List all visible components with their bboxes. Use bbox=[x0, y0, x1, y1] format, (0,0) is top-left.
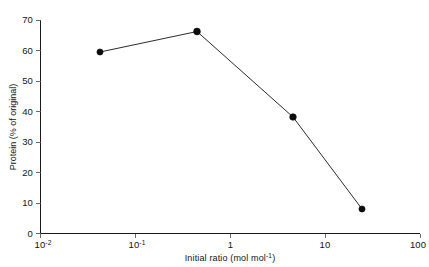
data-point-1 bbox=[97, 49, 103, 55]
x-tick-marks bbox=[41, 234, 421, 239]
y-tick-label-10: 10 bbox=[22, 197, 33, 208]
x-axis-title: Initial ratio (mol mol-1) bbox=[185, 252, 276, 264]
data-point-3 bbox=[290, 114, 297, 121]
x-tick-base-2: 10 bbox=[129, 239, 140, 250]
x-tick-label-100: 100 bbox=[410, 239, 426, 250]
x-axis-title-main: Initial ratio (mol mol bbox=[185, 253, 266, 263]
y-tick-label-60: 60 bbox=[22, 45, 33, 56]
y-tick-label-0: 0 bbox=[28, 228, 33, 239]
x-tick-label-1e-1: 10-1 bbox=[129, 239, 146, 251]
y-axis-title: Protein (% of original) bbox=[8, 84, 18, 171]
y-tick-label-50: 50 bbox=[22, 75, 33, 86]
data-point-2 bbox=[194, 28, 201, 35]
x-tick-base-1: 10 bbox=[35, 239, 46, 250]
data-point-4 bbox=[359, 206, 365, 212]
x-tick-label-10: 10 bbox=[320, 239, 331, 250]
x-axis-title-close: ) bbox=[272, 253, 275, 263]
svg-text:10-1: 10-1 bbox=[129, 239, 146, 251]
series-line-protein bbox=[100, 32, 362, 210]
line-chart: 0 10 20 30 40 50 60 70 10-2 10-1 1 10 1 bbox=[0, 0, 429, 267]
y-tick-label-70: 70 bbox=[22, 14, 33, 25]
y-tick-label-30: 30 bbox=[22, 136, 33, 147]
x-tick-exp-2: -1 bbox=[139, 239, 145, 246]
x-tick-label-1: 1 bbox=[228, 239, 233, 250]
svg-text:10-2: 10-2 bbox=[35, 239, 52, 251]
x-tick-exp-1: -2 bbox=[45, 239, 51, 246]
y-tick-label-20: 20 bbox=[22, 167, 33, 178]
chart-figure: 0 10 20 30 40 50 60 70 10-2 10-1 1 10 1 bbox=[0, 0, 429, 267]
x-tick-label-1e-2: 10-2 bbox=[35, 239, 52, 251]
y-tick-marks bbox=[36, 20, 41, 234]
y-tick-label-40: 40 bbox=[22, 106, 33, 117]
